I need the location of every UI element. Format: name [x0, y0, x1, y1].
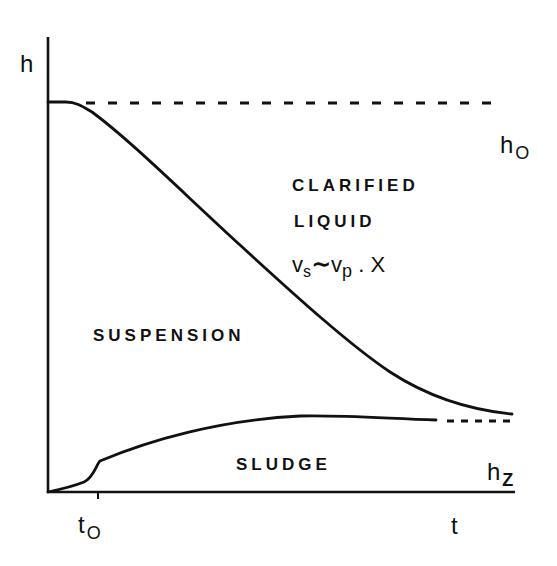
x-axis-label: t: [451, 514, 458, 538]
eq-sub-s: s: [303, 263, 311, 280]
hz-sub: Z: [502, 470, 513, 490]
h0-sub: O: [515, 143, 529, 163]
eq-v2: v: [331, 252, 342, 277]
suspension-label: SUSPENSION: [93, 327, 244, 344]
eq-sub-p: p: [342, 261, 352, 281]
hz-label: hZ: [487, 460, 513, 484]
interface-curve: [48, 102, 512, 414]
eq-tail: . X: [352, 252, 385, 277]
eq-v1: v: [292, 252, 303, 277]
t0-label: tO: [78, 513, 101, 537]
t0-sub: O: [87, 523, 101, 543]
sludge-curve: [48, 416, 436, 492]
h0-base: h: [500, 131, 513, 158]
settling-diagram: [0, 0, 557, 566]
clarified-label-line2: LIQUID: [294, 213, 376, 230]
t0-base: t: [78, 511, 85, 538]
h0-label: hO: [500, 133, 529, 157]
sludge-label: SLUDGE: [236, 456, 331, 473]
y-axis-label: h: [20, 52, 33, 76]
clarified-label-line1: CLARIFIED: [292, 177, 419, 194]
settling-velocity-equation: vs∼vp . X: [292, 252, 385, 276]
hz-base: h: [487, 458, 500, 485]
eq-proportional-icon: ∼: [311, 250, 331, 277]
